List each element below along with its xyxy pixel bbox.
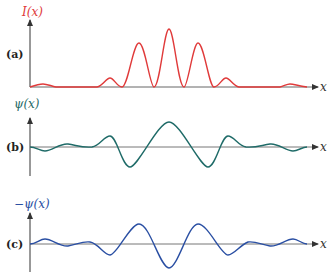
function-label-c: −ψ(x) bbox=[14, 197, 50, 211]
panel-b: (b) ψ(x) x bbox=[6, 97, 327, 176]
x-label-c: x bbox=[320, 237, 327, 251]
x-label-a: x bbox=[320, 80, 327, 94]
function-label-a: I(x) bbox=[21, 5, 43, 19]
psi-curve bbox=[30, 122, 307, 167]
panel-label-b: (b) bbox=[6, 141, 24, 154]
x-label-b: x bbox=[320, 140, 327, 154]
diffraction-figure: (a) I(x) x (b) ψ(x) x (c) −ψ(x) x bbox=[0, 0, 335, 275]
intensity-curve bbox=[30, 29, 307, 87]
panel-a: (a) I(x) x bbox=[6, 5, 327, 94]
function-label-b: ψ(x) bbox=[14, 97, 40, 111]
panel-label-c: (c) bbox=[6, 238, 23, 251]
panel-label-a: (a) bbox=[6, 48, 24, 61]
panel-c: (c) −ψ(x) x bbox=[6, 197, 327, 272]
neg-psi-curve bbox=[30, 224, 307, 268]
